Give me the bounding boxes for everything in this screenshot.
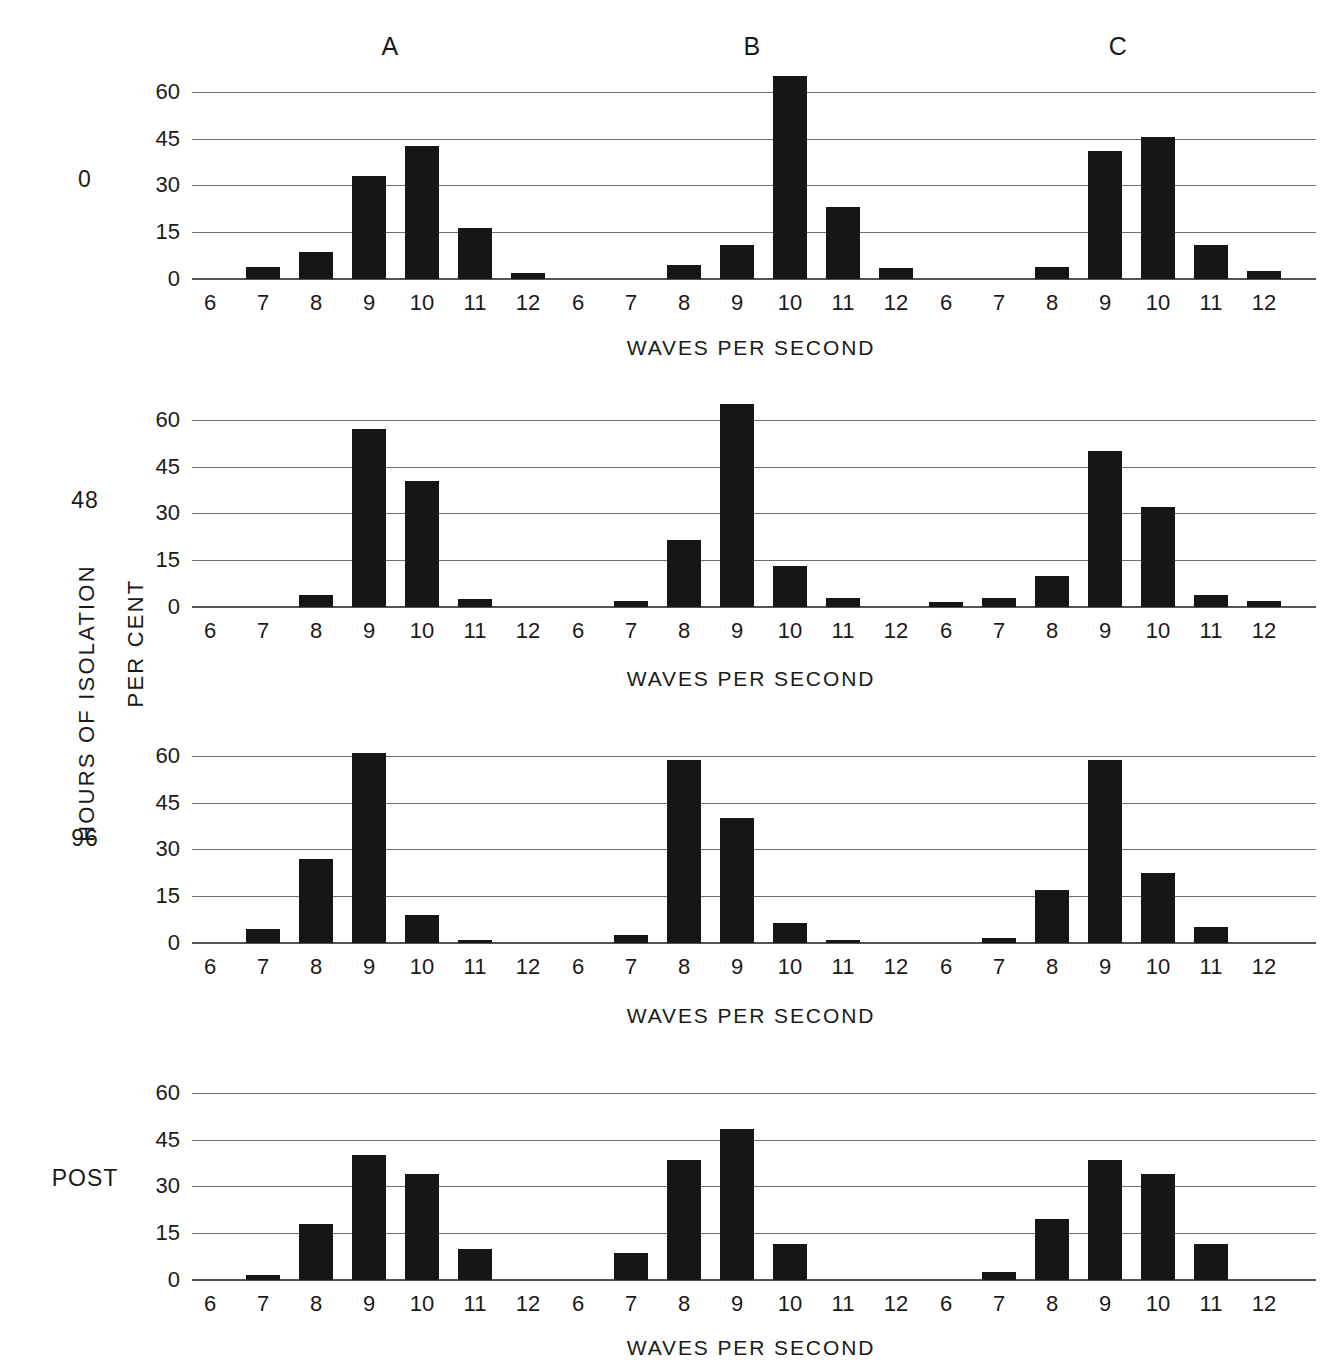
bar xyxy=(1088,1160,1122,1280)
x-tick-label-12: 12 xyxy=(1244,1293,1284,1315)
x-tick-label-10: 10 xyxy=(1138,1293,1178,1315)
figure-root: A B C HOURS OF ISOLATION PER CENT 0 48 9… xyxy=(0,0,1341,1372)
x-tick-label-6: 6 xyxy=(926,1293,966,1315)
x-tick-label-8: 8 xyxy=(1032,1293,1072,1315)
x-axis-title: WAVES PER SECOND xyxy=(551,1336,951,1360)
bar xyxy=(1194,1244,1228,1280)
bar xyxy=(982,1272,1016,1280)
chart-row-post: 015304560678910111267891011126789101112W… xyxy=(0,0,1341,1372)
panel-post-c: 6789101112 xyxy=(0,0,1341,1372)
x-tick-label-9: 9 xyxy=(1085,1293,1125,1315)
x-tick-label-7: 7 xyxy=(979,1293,1019,1315)
bar xyxy=(1035,1219,1069,1280)
bar xyxy=(1141,1174,1175,1280)
x-tick-label-11: 11 xyxy=(1191,1293,1231,1315)
